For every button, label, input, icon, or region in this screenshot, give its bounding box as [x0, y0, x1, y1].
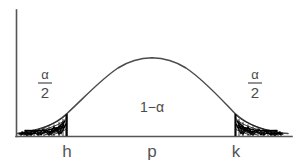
left-tail-label-alpha-over-2: α 2 [38, 67, 52, 101]
left-alpha-denominator: 2 [41, 84, 49, 101]
axis-label-k: k [232, 142, 241, 161]
left-alpha-numerator: α [41, 67, 49, 82]
axis-label-h: h [62, 142, 71, 161]
right-tail-shading [235, 115, 283, 136]
axis-label-p: p [147, 142, 156, 161]
distribution-chart-canvas: α 2 α 2 1−α h p k [0, 0, 304, 165]
right-alpha-numerator: α [251, 67, 259, 82]
left-tail-shading [19, 115, 67, 136]
center-region-label: 1−α [140, 99, 164, 115]
normal-curve-figure: α 2 α 2 1−α h p k [0, 0, 304, 165]
right-alpha-denominator: 2 [251, 84, 259, 101]
right-tail-label-alpha-over-2: α 2 [248, 67, 262, 101]
